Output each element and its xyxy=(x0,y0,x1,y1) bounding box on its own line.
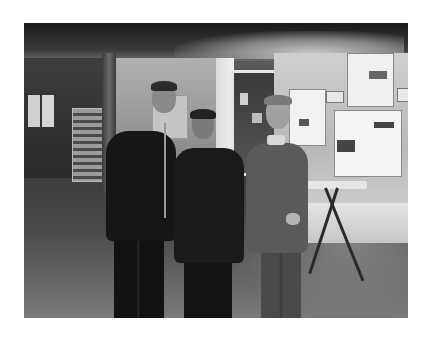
poster-photo xyxy=(374,122,394,128)
photograph xyxy=(24,23,408,318)
display-item xyxy=(252,113,262,123)
horse-image xyxy=(369,71,387,79)
poster-horse xyxy=(347,53,394,107)
poster xyxy=(289,89,326,146)
person-right-legs xyxy=(261,245,301,318)
person-middle-hair xyxy=(190,109,216,119)
poster-photo xyxy=(337,140,355,152)
poster-small xyxy=(326,91,344,103)
shirt-collar xyxy=(267,135,285,145)
person-right-hair xyxy=(264,95,292,105)
left-window xyxy=(40,93,56,129)
person-middle-coat xyxy=(174,148,244,263)
display-item xyxy=(240,93,248,105)
person-left-hair xyxy=(151,81,177,91)
person-left-legs xyxy=(114,233,164,318)
poster-small xyxy=(397,88,408,102)
poster-photo xyxy=(299,119,309,126)
jacket-zipper xyxy=(164,123,166,218)
photo-board xyxy=(72,108,104,182)
hand xyxy=(286,213,300,225)
person-right-sweater xyxy=(246,143,308,253)
